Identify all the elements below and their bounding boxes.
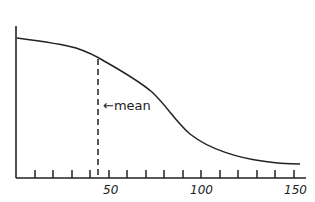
x-axis-ticks	[35, 170, 294, 178]
x-tick-label-150: 150	[284, 183, 307, 197]
mean-annotation: ←mean	[103, 98, 151, 113]
data-curve	[17, 38, 300, 164]
x-tick-label-50: 50	[103, 183, 119, 197]
line-chart: 50 100 150 ←mean	[0, 0, 315, 202]
x-tick-label-100: 100	[190, 183, 213, 197]
